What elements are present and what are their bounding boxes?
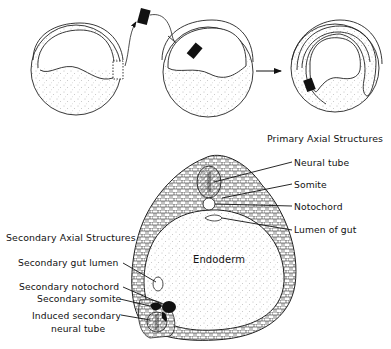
label-secondary-gut-lumen: Secondary gut lumen	[18, 257, 118, 268]
label-neural-tube: Neural tube	[294, 157, 349, 168]
label-induced-secondary: Induced secondary	[32, 310, 121, 321]
primary-notochord	[203, 198, 215, 210]
label-secondary-somite: Secondary somite	[37, 293, 121, 304]
donor-embryo	[31, 23, 123, 115]
primary-neural-tube	[197, 166, 221, 198]
secondary-gut-lumen	[153, 277, 163, 291]
label-secondary-notochord: Secondary notochord	[19, 281, 119, 292]
label-neural-tube-secondary: neural tube	[51, 323, 105, 334]
cross-section	[132, 155, 296, 340]
result-embryo	[291, 20, 382, 112]
secondary-axial-structures-title: Secondary Axial Structures	[6, 232, 136, 243]
label-notochord: Notochord	[294, 201, 343, 212]
label-lumen-of-gut: Lumen of gut	[294, 224, 356, 235]
label-somite: Somite	[294, 179, 327, 190]
primary-axial-structures-title: Primary Axial Structures	[267, 133, 383, 144]
secondary-notochord	[162, 301, 176, 313]
label-endoderm: Endoderm	[193, 254, 245, 265]
dorsal-lip-piece	[137, 8, 151, 25]
host-embryo	[162, 20, 253, 117]
